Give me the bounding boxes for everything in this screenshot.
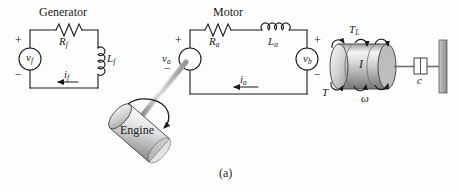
inertia-load-assembly — [330, 39, 447, 93]
motor-current-label: ia — [240, 73, 247, 87]
generator-title: Generator — [39, 5, 87, 20]
motor-torque-label: T — [322, 86, 328, 98]
motor-inductor-subscript: a — [274, 40, 278, 49]
motor-armature-source-plus: + — [175, 33, 182, 48]
motor-resistor-label: Ra — [209, 35, 219, 49]
generator-resistor-subscript: f — [66, 40, 68, 49]
fixed-wall — [439, 40, 447, 93]
generator-source-label: vf — [26, 51, 33, 65]
figure-caption: (a) — [219, 166, 232, 181]
inertia-cylinder-right-cap — [378, 44, 396, 89]
engine-label: Engine — [120, 123, 154, 138]
motor-circuit — [179, 23, 318, 94]
motor-back-emf-minus: − — [314, 67, 321, 82]
motor-title: Motor — [213, 5, 243, 20]
figure-root: Generator vf + − Rf Lf if Motor va + − R… — [0, 0, 458, 194]
motor-current-subscript: a — [243, 78, 247, 87]
angular-velocity-label: ω — [361, 92, 369, 104]
motor-resistor-subscript: a — [216, 40, 220, 49]
generator-current-subscript: f — [67, 73, 69, 82]
generator-source-plus: + — [15, 33, 22, 48]
generator-source-subscript: f — [31, 56, 33, 65]
inertia-label: I — [359, 57, 363, 72]
engine-assembly — [105, 62, 186, 167]
motor-inductor-symbol — [261, 23, 290, 30]
damper-label: c — [417, 74, 422, 86]
generator-inductor-label: Lf — [107, 52, 115, 66]
generator-inductor-symbol — [98, 47, 105, 75]
load-torque-subscript: L — [355, 28, 359, 37]
circuit-diagram-canvas — [0, 0, 458, 194]
motor-resistor-symbol-text: R — [209, 35, 216, 47]
generator-resistor-symbol-text: R — [59, 35, 66, 47]
generator-current-label: if — [64, 68, 69, 82]
motor-back-emf-label: vb — [303, 52, 312, 66]
motor-armature-source-minus: − — [164, 61, 171, 76]
motor-back-emf-subscript: b — [308, 57, 312, 66]
generator-resistor-label: Rf — [59, 35, 68, 49]
motor-inductor-label: La — [268, 35, 278, 49]
motor-back-emf-plus: + — [314, 33, 321, 48]
generator-inductor-subscript: f — [113, 57, 115, 66]
load-torque-label: TL — [349, 23, 359, 37]
generator-source-minus: − — [15, 67, 22, 82]
